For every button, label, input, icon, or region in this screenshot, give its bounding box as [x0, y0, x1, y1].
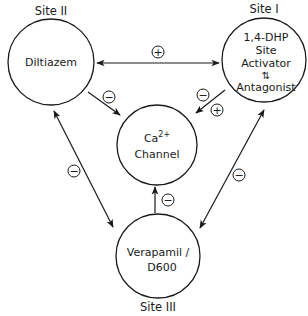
- edge-sign: +: [153, 46, 162, 59]
- channel-line-channel: Channel: [134, 148, 179, 161]
- node-site3-verapamil: Verapamil / D600 Site III: [116, 214, 200, 314]
- site2-name: Diltiazem: [25, 56, 77, 69]
- site1-line-dhp: 1,4-DHP: [244, 31, 289, 44]
- edge-sign: −: [234, 169, 243, 182]
- site1-line-activator: Activator: [241, 57, 291, 70]
- site1-line-antagonist: Antagonist: [236, 81, 296, 94]
- edge-sign: −: [69, 165, 78, 178]
- edge-site2-site1: +: [97, 46, 219, 63]
- edge-site2-site3: −: [54, 111, 113, 227]
- edge-site3-channel: −: [155, 187, 174, 213]
- node-calcium-channel: Ca2+ Channel: [117, 105, 197, 185]
- site1-label: Site I: [249, 2, 278, 16]
- double-arrow: [200, 110, 264, 228]
- edge-site1-channel: − +: [196, 89, 225, 117]
- site3-line-verapamil: Verapamil /: [127, 246, 190, 259]
- node-site1-dhp: Site I 1,4-DHP Site Activator ⇅ Antagoni…: [222, 2, 306, 102]
- calcium-channel-binding-sites-diagram: Site II Diltiazem Site I 1,4-DHP Site Ac…: [0, 0, 308, 316]
- site2-label: Site II: [35, 4, 68, 18]
- edge-sign: −: [104, 91, 113, 104]
- edge-sign: −: [198, 89, 207, 102]
- channel-line-ca: Ca2+: [144, 130, 170, 145]
- site3-label: Site III: [140, 300, 176, 314]
- edge-site1-site3: −: [200, 110, 264, 228]
- channel-circle: [117, 105, 197, 185]
- site1-line-site: Site: [255, 44, 276, 57]
- node-site2-diltiazem: Site II Diltiazem: [8, 4, 94, 105]
- edge-site2-channel: −: [88, 91, 120, 115]
- edge-sign-2: +: [212, 104, 221, 117]
- double-arrow: [54, 111, 113, 227]
- site3-line-d600: D600: [147, 261, 176, 274]
- equilibrium-arrows-icon: ⇅: [262, 70, 270, 81]
- edge-sign: −: [163, 194, 172, 207]
